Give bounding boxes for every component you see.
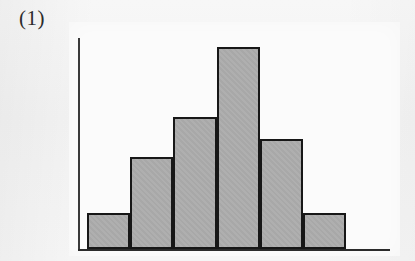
histogram-bars [69,22,400,256]
histogram-chart-panel [69,22,400,256]
histogram-bar [87,213,130,249]
page-root: (1) [0,0,415,261]
histogram-bar [260,139,303,249]
histogram-bar [173,117,216,249]
plot-area [69,22,400,256]
histogram-bar [130,157,173,249]
figure-label: (1) [19,8,45,29]
histogram-bar [217,47,260,249]
histogram-bar [303,213,346,249]
